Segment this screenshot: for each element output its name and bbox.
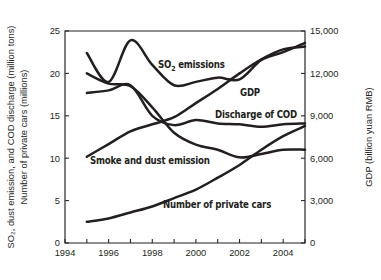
y-tick-label: 15: [50, 111, 60, 121]
y-tick-label: 0: [55, 238, 60, 248]
y-tick-label: 10: [50, 154, 60, 164]
y2-tick-label: 9,000: [310, 111, 333, 121]
series-label-cod: Discharge of COD: [215, 109, 297, 120]
y2-tick-label: 3,000: [310, 196, 333, 206]
chart-figure: 0510152025 03,0006,0009,00012,00015,000 …: [0, 0, 381, 280]
x-tick-label: 2002: [229, 248, 250, 258]
series-label-cars: Number of private cars: [163, 199, 271, 210]
y-tick-label: 20: [50, 69, 60, 79]
chart-svg: 0510152025 03,0006,0009,00012,00015,000 …: [0, 0, 381, 280]
series-label-gdp: GDP: [240, 87, 260, 98]
right-axis-title: GDP (billion yuan RMB): [363, 87, 374, 186]
x-tick-label: 2000: [186, 248, 207, 258]
series-label-smoke: Smoke and dust emission: [90, 155, 210, 166]
left-axis-title-line2: Number of private cars (millions): [18, 70, 29, 205]
x-tick-label: 1998: [142, 248, 163, 258]
x-tick-label: 2004: [273, 248, 294, 258]
y2-tick-label: 6,000: [310, 154, 333, 164]
y-tick-label: 5: [55, 196, 60, 206]
left-axis-title-line1: SO₂, dust emission, and COD discharge (m…: [5, 26, 16, 249]
x-tick-label: 1996: [98, 248, 119, 258]
y2-tick-label: 0: [310, 238, 315, 248]
x-tick-label: 1994: [55, 248, 76, 258]
y-tick-label: 25: [50, 26, 60, 36]
y2-tick-label: 12,000: [310, 69, 338, 79]
y2-tick-label: 15,000: [310, 26, 338, 36]
